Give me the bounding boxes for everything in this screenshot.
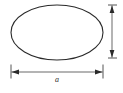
major-axis-label: a (0, 76, 114, 84)
minor-axis-arrowhead-top-icon (110, 6, 115, 14)
major-axis-arrowhead-left-icon (12, 70, 20, 75)
ellipse-outline (11, 5, 103, 60)
minor-axis-arrowhead-bottom-icon (110, 50, 115, 58)
ellipse-dimension-diagram: a (0, 0, 123, 93)
major-axis-arrowhead-right-icon (95, 70, 103, 75)
